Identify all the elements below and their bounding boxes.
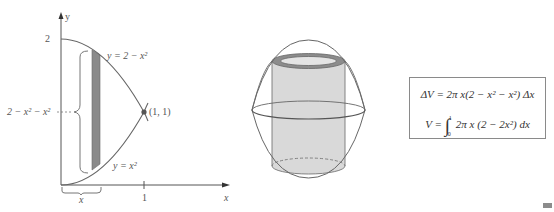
formula-v-prefix: V = bbox=[425, 118, 444, 130]
formula-dv: ΔV = 2π x(2 − x² − x²) Δx bbox=[421, 88, 535, 100]
x-axis-label: x bbox=[223, 192, 229, 203]
solid-inner-top-r bbox=[345, 61, 365, 110]
x-tick-label: 1 bbox=[142, 192, 147, 203]
y-axis-label: y bbox=[65, 11, 70, 22]
formula-box: ΔV = 2π x(2 − x² − x²) Δx V = ∫102π x (2… bbox=[409, 77, 546, 139]
height-label: 2 − x² − x² bbox=[7, 106, 51, 117]
intersection-label: (1, 1) bbox=[149, 106, 171, 118]
region-graph: y 2 1 x x y = 2 − x² y = x² (1, 1) 2 − x… bbox=[7, 11, 230, 205]
shell-body bbox=[272, 61, 345, 166]
corner-mark bbox=[543, 203, 552, 208]
volume-element-formula: ΔV = 2π x(2 − x² − x²) Δx bbox=[410, 88, 545, 100]
strip-rect bbox=[92, 50, 100, 170]
lower-curve-label: y = x² bbox=[112, 160, 138, 171]
solid-of-revolution bbox=[252, 40, 365, 178]
x-axis-arrow-icon bbox=[222, 183, 230, 188]
volume-integral-formula: V = ∫102π x (2 − 2x²) dx bbox=[410, 111, 545, 133]
upper-curve-label: y = 2 − x² bbox=[106, 50, 148, 61]
solid-inner-top bbox=[252, 61, 272, 110]
integral-lower-limit: 0 bbox=[448, 131, 451, 137]
integral-body: 2π x (2 − 2x²) dx bbox=[456, 118, 530, 130]
x-marker-label: x bbox=[78, 194, 84, 205]
y-axis-arrow-icon bbox=[59, 12, 64, 19]
height-brace bbox=[74, 51, 88, 173]
intersection-point bbox=[141, 109, 146, 114]
curve-lower bbox=[61, 112, 144, 185]
integral-upper-limit: 1 bbox=[449, 115, 452, 121]
shell-rim-inner bbox=[281, 57, 337, 66]
y-tick-label: 2 bbox=[45, 33, 50, 44]
